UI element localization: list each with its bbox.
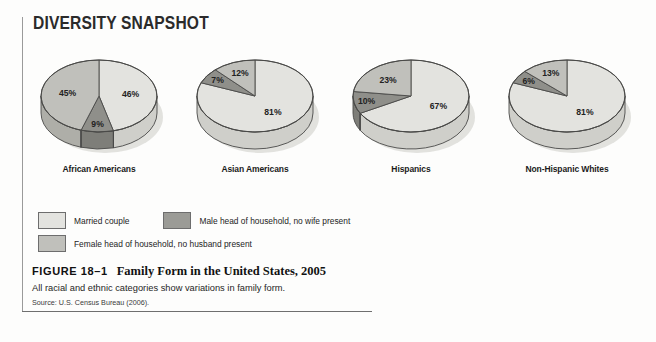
- pie-slice-label: 7%: [211, 75, 224, 85]
- legend-label-male-head: Male head of household, no wife present: [199, 216, 350, 226]
- legend-row-1: Married couple Male head of household, n…: [38, 209, 468, 232]
- pie-slice-label: 67%: [430, 101, 448, 111]
- pie-slice-label: 81%: [576, 107, 594, 117]
- legend-row-2: Female head of household, no husband pre…: [38, 232, 468, 255]
- pie-category-label: Non-Hispanic Whites: [525, 164, 608, 174]
- legend-label-married-couple: Married couple: [74, 216, 129, 226]
- pie-chart-2: 81%7%12%Asian Americans: [180, 40, 330, 174]
- pie-slice-label: 81%: [264, 107, 282, 117]
- figure-source: Source: U.S. Census Bureau (2006).: [32, 298, 452, 307]
- pie-graphic: 81%6%13%: [492, 40, 642, 162]
- pie-graphic: 67%10%23%: [336, 40, 486, 162]
- page-title: DIVERSITY SNAPSHOT: [33, 12, 209, 34]
- legend-swatch-male-head: [163, 212, 191, 229]
- figure-number: FIGURE 18–1: [32, 265, 108, 277]
- pie-slice-label: 6%: [523, 76, 536, 86]
- pie-graphic: 81%7%12%: [180, 40, 330, 162]
- pie-category-label: Hispanics: [391, 164, 430, 174]
- legend-label-female-head: Female head of household, no husband pre…: [74, 239, 252, 249]
- pie-chart-3: 67%10%23%Hispanics: [336, 40, 486, 174]
- figure-caption-headline: FIGURE 18–1Family Form in the United Sta…: [32, 264, 452, 279]
- pie-slice-label: 12%: [231, 68, 249, 78]
- pie-slice-label: 23%: [379, 75, 397, 85]
- figure-description: All racial and ethnic categories show va…: [32, 283, 452, 293]
- legend-item-married-couple: Married couple: [38, 212, 129, 229]
- legend-item-female-head: Female head of household, no husband pre…: [38, 235, 252, 252]
- pie-chart-group: 46%9%45%African Americans81%7%12%Asian A…: [24, 40, 642, 185]
- figure-caption: FIGURE 18–1Family Form in the United Sta…: [32, 264, 452, 307]
- pie-graphic: 46%9%45%: [24, 40, 174, 162]
- legend: Married couple Male head of household, n…: [38, 209, 468, 255]
- legend-swatch-married-couple: [38, 212, 66, 229]
- pie-slice-label: 45%: [59, 88, 77, 98]
- pie-chart-1: 46%9%45%African Americans: [24, 40, 174, 174]
- pie-category-label: Asian Americans: [221, 164, 288, 174]
- legend-swatch-female-head: [38, 235, 66, 252]
- pie-slice-label: 10%: [358, 96, 376, 106]
- pie-category-label: African Americans: [62, 164, 135, 174]
- frame-bottom-rule: [22, 311, 372, 312]
- pie-slice-label: 9%: [91, 119, 104, 129]
- figure-title: Family Form in the United States, 2005: [117, 264, 326, 278]
- pie-slice-label: 13%: [542, 68, 560, 78]
- frame-left-rule: [22, 17, 23, 312]
- pie-chart-4: 81%6%13%Non-Hispanic Whites: [492, 40, 642, 174]
- legend-item-male-head: Male head of household, no wife present: [163, 212, 350, 229]
- pie-slice-label: 46%: [122, 89, 140, 99]
- figure-container: DIVERSITY SNAPSHOT 46%9%45%African Ameri…: [0, 0, 656, 342]
